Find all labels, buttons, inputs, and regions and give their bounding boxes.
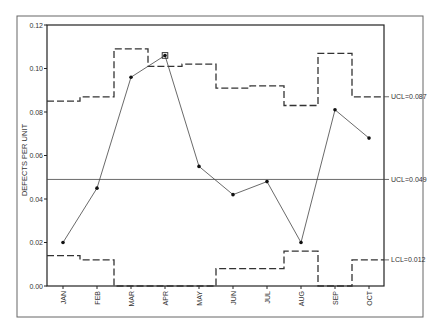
x-tick-label: APR xyxy=(162,291,169,305)
x-tick-label: FEB xyxy=(94,291,101,305)
data-point-marker xyxy=(163,54,167,58)
data-point-marker xyxy=(231,193,235,197)
control-limit-label: UCL=0.049 xyxy=(391,176,427,183)
y-tick-label: 0.12 xyxy=(29,22,43,29)
data-point-marker xyxy=(95,186,99,190)
data-point-marker xyxy=(197,165,201,169)
y-tick-label: 0.08 xyxy=(29,109,43,116)
y-tick-label: 0.04 xyxy=(29,196,43,203)
x-tick-label: MAY xyxy=(196,291,203,306)
control-limit-label: LCL=0.012 xyxy=(391,256,426,263)
data-point-marker xyxy=(129,75,133,79)
y-tick-label: 0.06 xyxy=(29,152,43,159)
p-chart: 0.000.020.040.060.080.100.12JANFEBMARAPR… xyxy=(0,0,442,324)
x-tick-label: AUG xyxy=(298,291,305,306)
y-axis-title: DEFECTS PER UNIT xyxy=(20,124,29,197)
data-point-marker xyxy=(299,241,303,245)
data-point-marker xyxy=(333,108,337,112)
x-tick-label: MAR xyxy=(128,291,135,307)
control-limit-label: UCL=0.087 xyxy=(391,93,427,100)
y-tick-label: 0.10 xyxy=(29,65,43,72)
outer-frame xyxy=(17,16,423,317)
plot-area: 0.000.020.040.060.080.100.12JANFEBMARAPR… xyxy=(29,22,426,307)
x-tick-label: JUL xyxy=(264,291,271,304)
x-tick-label: JAN xyxy=(60,291,67,304)
x-tick-label: SEP xyxy=(332,291,339,305)
data-point-marker xyxy=(61,241,65,245)
lcl-step-line xyxy=(47,251,384,286)
ucl-step-line xyxy=(47,49,384,106)
y-tick-label: 0.02 xyxy=(29,239,43,246)
x-tick-label: OCT xyxy=(366,290,373,306)
y-tick-label: 0.00 xyxy=(29,283,43,290)
data-point-marker xyxy=(367,136,371,140)
data-point-marker xyxy=(265,180,269,184)
x-tick-label: JUN xyxy=(230,291,237,305)
